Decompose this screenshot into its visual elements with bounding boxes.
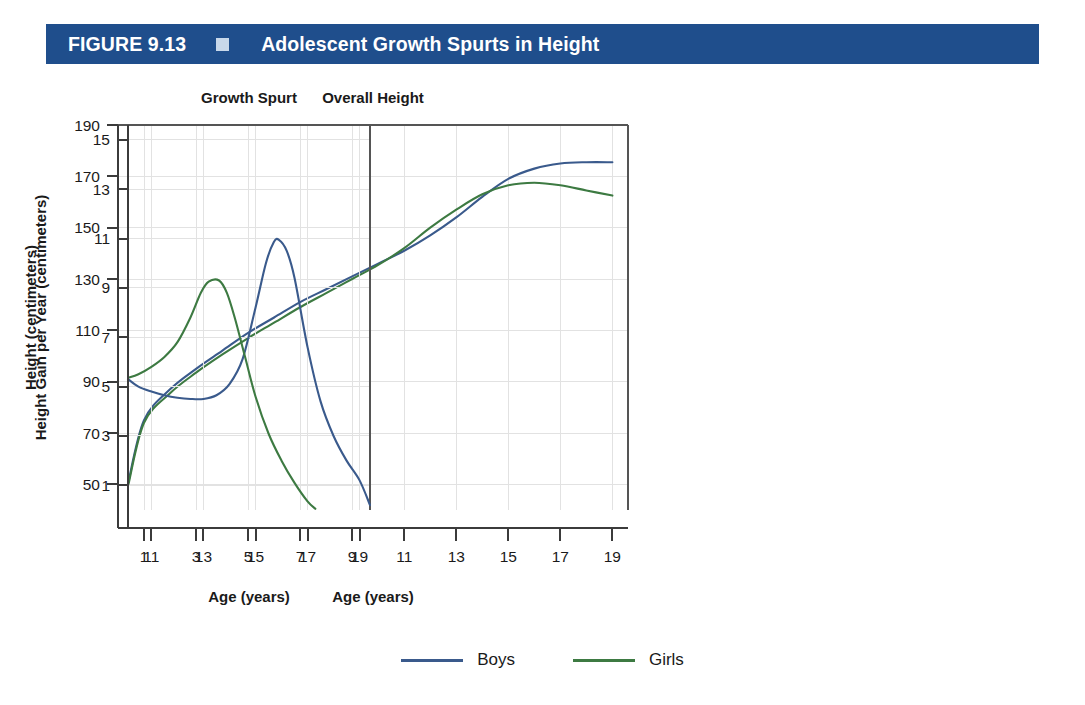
y-tick-label: 5 <box>101 378 110 395</box>
chart-legend: Boys Girls <box>0 640 1085 680</box>
legend-item-girls: Girls <box>573 650 684 670</box>
y-tick-label: 13 <box>93 181 110 198</box>
legend-swatch-boys <box>401 659 463 662</box>
y-tick-label: 1 <box>101 477 110 494</box>
header-square-marker-icon <box>216 38 229 51</box>
x-axis-title: Age (years) <box>208 588 290 605</box>
figure-root: FIGURE 9.13 Adolescent Growth Spurts in … <box>0 0 1085 705</box>
figure-title: Adolescent Growth Spurts in Height <box>261 33 599 56</box>
series-line-girls <box>128 280 315 509</box>
y-tick-label: 15 <box>93 131 110 148</box>
figure-number-label: FIGURE 9.13 <box>68 33 186 56</box>
chart-growth-spurt-svg: Growth Spurt135791113151113151719Age (ye… <box>0 64 390 639</box>
subplot-title: Growth Spurt <box>201 89 297 106</box>
x-tick-label: 17 <box>552 548 569 565</box>
x-tick-label: 13 <box>195 548 212 565</box>
legend-item-boys: Boys <box>401 650 515 670</box>
y-axis-title: Height Gain per Year (centimeters) <box>32 195 49 441</box>
legend-swatch-girls <box>573 659 635 662</box>
x-tick-label: 15 <box>500 548 517 565</box>
figure-header-bar: FIGURE 9.13 Adolescent Growth Spurts in … <box>46 24 1039 64</box>
legend-label-boys: Boys <box>477 650 515 670</box>
y-tick-label: 11 <box>94 230 110 247</box>
y-tick-label: 3 <box>101 427 110 444</box>
x-tick-label: 19 <box>351 548 368 565</box>
x-tick-label: 13 <box>448 548 465 565</box>
y-tick-label: 9 <box>101 279 110 296</box>
x-tick-label: 15 <box>247 548 264 565</box>
charts-area: Overall Height50709011013015017019013579… <box>0 64 1085 639</box>
y-tick-label: 7 <box>101 329 110 346</box>
legend-label-girls: Girls <box>649 650 684 670</box>
x-tick-label: 11 <box>396 548 412 565</box>
x-tick-label: 19 <box>604 548 621 565</box>
x-tick-label: 17 <box>299 548 316 565</box>
x-tick-label: 11 <box>143 548 159 565</box>
